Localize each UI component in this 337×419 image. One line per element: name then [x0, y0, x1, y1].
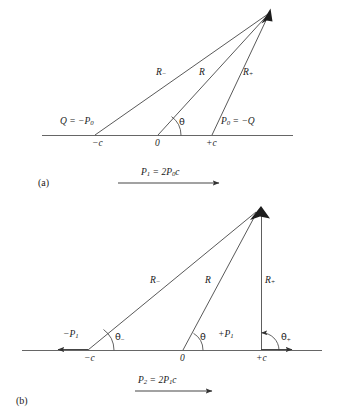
panel-a-tag: (a) [38, 178, 49, 188]
panel-a-theta-label: θ [179, 117, 185, 127]
figure-canvas: Q = −P0 P0 = −Q R− R R+ θ −c 0 +c P1 = 2… [0, 0, 337, 419]
panel-b-tick-plus-c: +c [256, 354, 267, 364]
panel-a-tick-zero: 0 [155, 139, 160, 149]
panel-b-R-minus-label: R− [150, 276, 160, 286]
panel-b-theta-plus-label: θ+ [281, 332, 291, 344]
panel-b-moment-label: P2 = 2P1c [138, 376, 177, 386]
panel-a-geometry [42, 9, 293, 184]
panel-b-theta-label: θ [200, 332, 206, 342]
panel-b-R-plus-label: R+ [265, 276, 275, 286]
panel-b-tick-minus-c: −c [84, 354, 95, 364]
panel-a-right-charge-label: P0 = −Q [221, 117, 255, 127]
panel-a-tick-plus-c: +c [206, 139, 217, 149]
panel-a-R-plus-label: R+ [243, 68, 253, 78]
panel-a-apex-arrowhead [262, 9, 273, 24]
panel-b-apex-arrowhead [250, 206, 270, 220]
panel-b-right-charge-label: +P1 [218, 330, 234, 340]
panel-a-left-charge-label: Q = −P0 [60, 117, 94, 127]
panel-b-theta-plus-arc [262, 333, 279, 350]
panel-a-R-label: R [199, 68, 205, 78]
panel-a-tick-minus-c: −c [92, 139, 103, 149]
figure-vector-layer [0, 0, 337, 419]
panel-a-moment-label: P1 = 2P0c [141, 168, 180, 178]
panel-b-tag: (b) [16, 396, 28, 406]
panel-b-tick-zero: 0 [180, 354, 185, 364]
panel-b-theta-minus-label: θ− [115, 332, 125, 344]
panel-b-left-charge-label: −P1 [63, 330, 79, 340]
panel-a-R-minus-label: R− [156, 68, 166, 78]
panel-b-R-label: R [205, 276, 211, 286]
panel-b-geometry [22, 206, 322, 391]
